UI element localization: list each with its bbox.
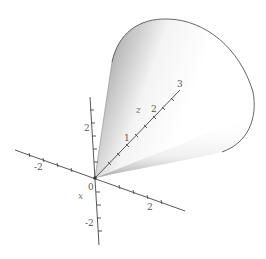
horizontal-tick-label-2: 2 xyxy=(147,202,153,212)
origin-point xyxy=(93,176,97,180)
z-axis-label: z xyxy=(135,105,141,115)
cone-3d-plot: 2 -2 -2 2 1 2 3 z x 0 xyxy=(0,0,266,259)
x-axis-label: x xyxy=(78,191,83,201)
z-tick-label-3: 3 xyxy=(177,79,183,89)
origin-label: 0 xyxy=(88,182,94,192)
z-tick-label-1: 1 xyxy=(124,133,130,143)
vertical-tick-label-neg2: -2 xyxy=(85,218,94,228)
horizontal-tick-label-neg2: -2 xyxy=(34,162,43,172)
vertical-tick-label-2: 2 xyxy=(84,123,90,133)
cone-surface xyxy=(95,19,254,178)
z-tick-label-2: 2 xyxy=(151,104,157,114)
